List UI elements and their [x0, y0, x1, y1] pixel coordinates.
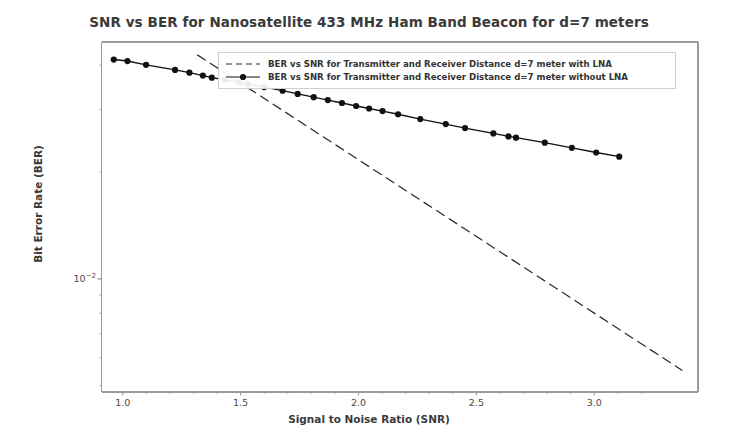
data-point-marker [417, 116, 423, 122]
data-point-marker [542, 140, 548, 146]
data-point-marker [295, 91, 301, 97]
data-point-marker [569, 145, 575, 151]
legend-label-without-lna: BER vs SNR for Transmitter and Receiver … [268, 72, 628, 82]
data-point-marker [143, 62, 149, 68]
data-point-marker [124, 58, 130, 64]
data-point-marker [325, 97, 331, 103]
chart-title: SNR vs BER for Nanosatellite 433 MHz Ham… [0, 14, 738, 30]
legend-swatch-dashed [225, 58, 261, 70]
legend-swatch-solid-marker [225, 71, 261, 83]
data-point-marker [513, 135, 519, 141]
data-point-marker [490, 130, 496, 136]
data-point-marker [172, 67, 178, 73]
chart-figure: SNR vs BER for Nanosatellite 433 MHz Ham… [0, 0, 738, 448]
data-point-marker [505, 133, 511, 139]
data-point-marker [593, 149, 599, 155]
data-point-marker [379, 108, 385, 114]
y-axis-ticks [98, 65, 102, 386]
data-point-marker [311, 94, 317, 100]
axis-spines [102, 42, 699, 392]
x-tick-label: 3.0 [569, 397, 619, 408]
data-point-marker [616, 154, 622, 160]
chart-legend: BER vs SNR for Transmitter and Receiver … [218, 52, 676, 89]
data-point-marker [462, 125, 468, 131]
x-axis-label: Signal to Noise Ratio (SNR) [0, 413, 738, 425]
y-axis-label: Bit Error Rate (BER) [32, 104, 44, 304]
x-tick-label: 2.0 [333, 397, 383, 408]
data-point-marker [339, 100, 345, 106]
series-line-0 [198, 55, 682, 370]
data-point-marker [443, 121, 449, 127]
data-point-marker [366, 105, 372, 111]
data-point-marker [186, 70, 192, 76]
data-point-marker [200, 72, 206, 78]
legend-label-with-lna: BER vs SNR for Transmitter and Receiver … [268, 59, 612, 69]
data-series-group [111, 55, 682, 370]
x-tick-label: 1.0 [98, 397, 148, 408]
data-point-marker [209, 75, 215, 81]
data-point-marker [111, 56, 117, 62]
x-tick-label: 1.5 [216, 397, 266, 408]
x-tick-label: 2.5 [451, 397, 501, 408]
legend-item-without-lna: BER vs SNR for Transmitter and Receiver … [225, 70, 669, 83]
y-tick-label: 10−2 [40, 272, 96, 284]
data-point-marker [395, 111, 401, 117]
legend-item-with-lna: BER vs SNR for Transmitter and Receiver … [225, 57, 669, 70]
data-point-marker [353, 103, 359, 109]
